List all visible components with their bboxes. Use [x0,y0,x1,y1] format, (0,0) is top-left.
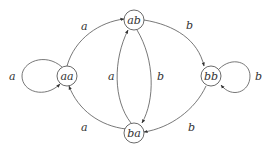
edge-bb-bb [219,62,250,93]
label-ab-bb: b [186,19,193,32]
edge-aa-ab [67,19,124,66]
edge-aa-aa [22,60,62,93]
label-ab-ba: b [157,70,164,83]
label-ba-ab: a [108,70,115,83]
node-ab: ab [124,10,144,30]
node-ba-label: ba [127,127,141,140]
node-ba: ba [124,123,144,143]
label-aa-ab: a [81,20,88,33]
label-ba-aa: a [81,121,88,134]
node-bb: bb [201,66,221,86]
node-bb-label: bb [204,70,218,83]
label-bb-ba: b [188,121,195,134]
label-bb-bb: b [255,70,262,83]
edge-ba-aa [69,86,126,129]
state-diagram: a a b b a a b b aa ab bb ba [0,0,268,152]
node-aa-label: aa [60,70,73,83]
edge-bb-ba [144,86,206,132]
node-ab-label: ab [127,14,141,27]
edge-ab-bb [144,20,204,66]
edge-ab-ba [137,30,151,123]
node-aa: aa [57,66,77,86]
label-aa-aa: a [9,70,16,83]
edge-ba-ab [117,30,131,123]
